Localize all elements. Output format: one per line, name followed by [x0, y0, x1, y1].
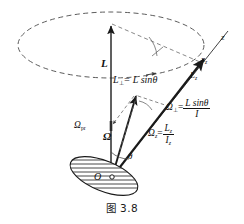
omega-z-denominator: Iz — [163, 135, 175, 146]
omega-z-den-subscript: z — [169, 140, 171, 146]
label-omega-perpendicular-equation: Ω⊥=L sinθI — [166, 98, 210, 120]
omega-perp-numerator: L sinθ — [183, 98, 210, 109]
omega-z-symbol: Ω — [148, 128, 155, 138]
label-origin: O — [94, 172, 101, 182]
label-z-axis: z — [221, 33, 225, 42]
label-L-perpendicular: L⊥= L sinθ — [113, 75, 157, 86]
label-xz-subscript: z — [205, 59, 207, 65]
spinning-disk — [62, 149, 148, 204]
label-Lz-subscript: z — [195, 75, 197, 81]
omega-perp-denominator: I — [183, 109, 210, 119]
omega-z-num-subscript: z — [170, 128, 172, 134]
label-x-z-axis: xz — [201, 55, 207, 65]
L-perp-construction — [112, 24, 200, 62]
figure-caption: 图 3.8 — [0, 200, 244, 215]
omega-perp-fraction: L sinθI — [183, 98, 210, 120]
label-L-perp-theta: θ — [152, 74, 157, 85]
omega-pr-subscript: pr — [81, 125, 86, 131]
omega-perp-lhs: Ω⊥= — [166, 103, 183, 114]
omega-z-fraction: LzIz — [163, 123, 175, 146]
omega-perp-symbol: Ω — [166, 102, 173, 112]
omega-pr-symbol: Ω — [74, 120, 81, 130]
label-L-perp-value: = L sin — [124, 74, 153, 85]
label-omega-precession: Ωpr — [74, 121, 86, 132]
omega-z-lhs: Ωz= — [148, 129, 163, 140]
label-omega-z-equation: Ωz=LzIz — [148, 123, 174, 146]
figure-container: L L⊥= L sinθ z xz Lz Ω⊥=L sinθI Ωz=LzIz … — [0, 0, 244, 224]
label-angular-momentum-L: L — [101, 58, 108, 69]
label-omega-vector: Ω — [103, 131, 111, 142]
label-Lz: Lz — [190, 71, 197, 81]
label-theta-angle: θ — [128, 152, 132, 161]
omega-z-numerator: Lz — [163, 123, 175, 135]
